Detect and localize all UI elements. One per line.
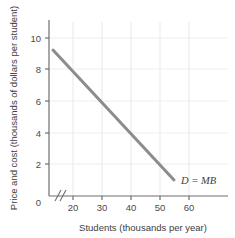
y-tick-label-2: 2 <box>36 159 41 170</box>
x-axis-title: Students (thousands per year) <box>79 222 207 233</box>
gridlines-horizontal <box>49 38 228 164</box>
x-tick-label-20: 20 <box>68 202 79 213</box>
y-tick-label-0: 0 <box>36 197 41 208</box>
x-tick-marks <box>73 196 189 200</box>
x-tick-label-40: 40 <box>126 202 137 213</box>
x-tick-label-50: 50 <box>155 202 166 213</box>
y-tick-label-8: 8 <box>36 64 41 75</box>
y-tick-label-10: 10 <box>30 33 41 44</box>
y-tick-label-4: 4 <box>36 128 41 139</box>
curve-label-d-mb: D = MB <box>180 175 217 186</box>
gridlines-vertical <box>73 22 189 196</box>
x-tick-label-30: 30 <box>97 202 108 213</box>
chart-figure: 10 8 6 4 2 0 20 30 40 50 60 D = MB Stude… <box>0 0 235 238</box>
demand-curve-chart: 10 8 6 4 2 0 20 30 40 50 60 D = MB Stude… <box>0 0 235 238</box>
x-tick-label-60: 60 <box>184 202 195 213</box>
y-tick-label-6: 6 <box>36 96 41 107</box>
y-axis-title: Price and cost (thousands of dollars per… <box>8 6 19 210</box>
